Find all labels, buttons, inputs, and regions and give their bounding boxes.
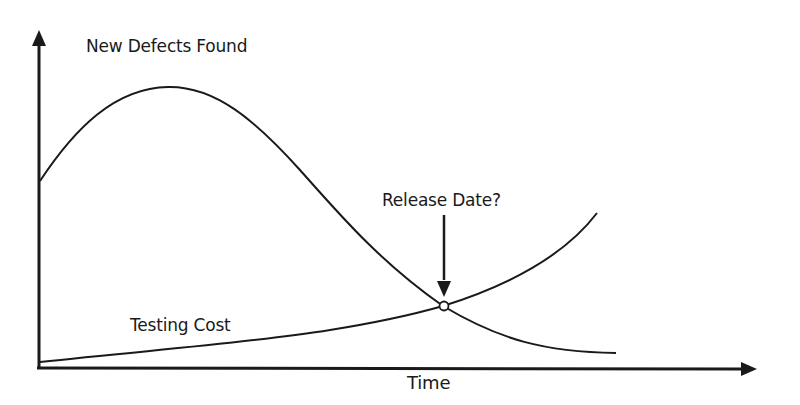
testing-cost-label: Testing Cost — [130, 317, 231, 334]
release-date-label: Release Date? — [382, 192, 501, 209]
defects-curve-label: New Defects Found — [86, 38, 247, 55]
x-axis-label: Time — [407, 374, 450, 392]
circle-marker-icon — [440, 302, 449, 311]
x-axis — [37, 368, 745, 369]
arrow-up-icon — [32, 30, 46, 46]
defects-curve — [40, 87, 616, 353]
arrow-right-icon — [741, 362, 757, 376]
arrow-down-icon — [437, 281, 451, 297]
